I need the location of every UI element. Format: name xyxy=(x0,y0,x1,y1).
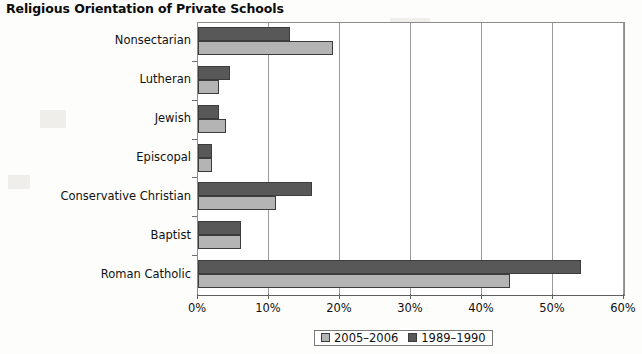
bar-1989-1990 xyxy=(198,66,230,80)
x-tick-50 xyxy=(552,294,553,299)
bar-1989-1990 xyxy=(198,221,241,235)
y-tick xyxy=(192,100,197,101)
x-axis-label-0: 0% xyxy=(177,301,217,315)
y-tick xyxy=(192,216,197,217)
bar-2005-2006 xyxy=(198,158,212,172)
bar-group xyxy=(198,178,624,217)
bar-1989-1990 xyxy=(198,27,290,41)
bar-group xyxy=(198,217,624,256)
x-axis-label-60: 60% xyxy=(603,301,642,315)
y-tick xyxy=(192,177,197,178)
bar-2005-2006 xyxy=(198,119,226,133)
y-axis-label-roman-catholic: Roman Catholic xyxy=(101,268,191,281)
bar-1989-1990 xyxy=(198,144,212,158)
x-axis-label-40: 40% xyxy=(461,301,501,315)
x-tick-10 xyxy=(268,294,269,299)
y-axis-label-episcopal: Episcopal xyxy=(136,151,191,164)
x-tick-20 xyxy=(339,294,340,299)
bar-group xyxy=(198,101,624,140)
x-axis-label-30: 30% xyxy=(390,301,430,315)
legend-label-1989-1990: 1989–1990 xyxy=(421,331,485,345)
y-tick xyxy=(192,61,197,62)
chart-page: Religious Orientation of Private Schools… xyxy=(0,0,642,354)
legend-swatch-light-icon xyxy=(321,333,330,342)
bar-1989-1990 xyxy=(198,105,219,119)
y-tick xyxy=(192,139,197,140)
y-axis-label-nonsectarian: Nonsectarian xyxy=(115,34,191,47)
bar-2005-2006 xyxy=(198,274,510,288)
bar-2005-2006 xyxy=(198,41,333,55)
y-axis-label-baptist: Baptist xyxy=(151,229,191,242)
y-tick xyxy=(192,255,197,256)
x-tick-60 xyxy=(623,294,624,299)
x-tick-0 xyxy=(197,294,198,299)
legend-swatch-dark-icon xyxy=(408,333,417,342)
bar-2005-2006 xyxy=(198,80,219,94)
bar-1989-1990 xyxy=(198,182,312,196)
x-axis-label-20: 20% xyxy=(319,301,359,315)
bar-2005-2006 xyxy=(198,235,241,249)
page-title: Religious Orientation of Private Schools xyxy=(6,1,284,16)
y-axis-label-lutheran: Lutheran xyxy=(140,73,191,86)
bar-group xyxy=(198,256,624,295)
x-axis-label-50: 50% xyxy=(532,301,572,315)
y-axis-label-jewish: Jewish xyxy=(155,112,191,125)
x-tick-40 xyxy=(481,294,482,299)
bar-group xyxy=(198,23,624,62)
plot-area xyxy=(197,22,625,296)
legend-label-2005-2006: 2005–2006 xyxy=(334,331,398,345)
legend-item-2005-2006: 2005–2006 xyxy=(321,331,398,345)
bar-1989-1990 xyxy=(198,260,581,274)
chart-legend: 2005–2006 1989–1990 xyxy=(314,330,493,346)
y-axis-label-conservative-christian: Conservative Christian xyxy=(60,190,191,203)
legend-item-1989-1990: 1989–1990 xyxy=(408,331,485,345)
bar-group xyxy=(198,62,624,101)
bar-2005-2006 xyxy=(198,196,276,210)
x-tick-30 xyxy=(410,294,411,299)
bar-group xyxy=(198,140,624,179)
x-axis-label-10: 10% xyxy=(248,301,288,315)
